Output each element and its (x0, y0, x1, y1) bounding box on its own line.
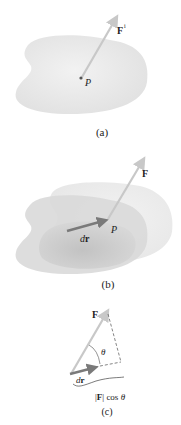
panel-c: F θ dr |F| cos θ (c) (70, 309, 126, 418)
force-superscript: i (124, 23, 126, 29)
perpendicular-dashed-line (108, 314, 121, 362)
displacement-label: dr (76, 375, 85, 385)
panel-b: F P dr (b) (16, 162, 173, 291)
angle-label: θ (101, 347, 106, 357)
rigid-body-shape (16, 35, 148, 114)
force-vector-arrow (71, 314, 106, 374)
rigid-body-inner-shadow (39, 221, 136, 268)
displacement-label: dr (80, 233, 90, 244)
panel-a: F i P (a) (16, 20, 148, 139)
angle-arc (89, 345, 100, 364)
work-diagram: F i P (a) F P dr (b) F θ dr |F| cos θ (c… (0, 0, 181, 425)
caption-c: (c) (101, 406, 112, 418)
force-label: F (117, 25, 123, 36)
force-label: F (92, 309, 98, 320)
projection-label: |F| cos θ (95, 392, 126, 402)
caption-b: (b) (102, 278, 115, 291)
point-label: P (84, 77, 91, 88)
point-label: P (110, 224, 117, 235)
caption-a: (a) (96, 126, 109, 139)
projection-dashed-line (95, 362, 121, 367)
point-p-dot (79, 76, 82, 79)
force-label: F (142, 168, 148, 179)
